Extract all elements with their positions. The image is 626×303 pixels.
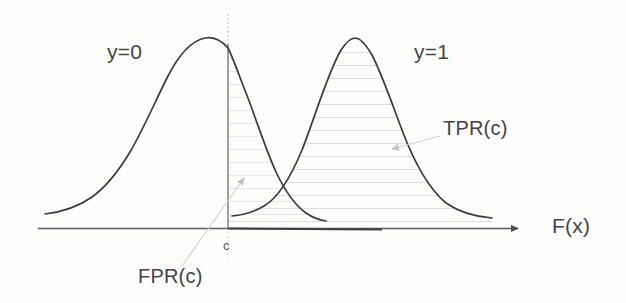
threshold-tick-label: c bbox=[223, 238, 230, 253]
series-label-y1: y=1 bbox=[414, 40, 449, 64]
series-label-y0: y=0 bbox=[107, 40, 142, 64]
figure-canvas bbox=[0, 0, 626, 303]
annotation-fpr: FPR(c) bbox=[138, 265, 203, 288]
roc-threshold-figure: y=0 y=1 TPR(c) FPR(c) F(x) c bbox=[0, 0, 626, 303]
x-axis bbox=[38, 229, 518, 230]
annotation-tpr: TPR(c) bbox=[443, 117, 508, 140]
x-axis-label: F(x) bbox=[552, 214, 590, 238]
